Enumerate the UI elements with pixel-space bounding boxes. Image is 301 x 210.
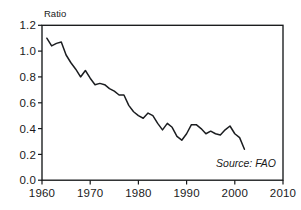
y-axis-tick-labels: 1.2 1.0 0.8 0.6 0.4 0.2 0.0: [19, 19, 36, 186]
x-tick-label-1990: 1990: [173, 187, 199, 199]
chart-container: 1.2 1.0 0.8 0.6 0.4 0.2 0.0 Ratio: [0, 0, 301, 210]
source-note: Source: FAO: [216, 157, 276, 169]
y-tick-label-1-2: 1.2: [19, 19, 36, 31]
y-tick-label-0-2: 0.2: [19, 149, 36, 161]
x-tick-label-1980: 1980: [125, 187, 151, 199]
x-axis-tick-labels: 1960 1970 1980 1990 2000 2010: [29, 187, 296, 199]
x-tick-label-2010: 2010: [270, 187, 296, 199]
ratio-series-line: [47, 38, 245, 149]
y-tick-label-0-6: 0.6: [19, 97, 36, 109]
y-tick-label-0-0: 0.0: [19, 174, 36, 186]
ratio-line-chart: 1.2 1.0 0.8 0.6 0.4 0.2 0.0 Ratio: [0, 0, 301, 210]
y-tick-label-0-8: 0.8: [19, 71, 36, 83]
x-tick-label-1960: 1960: [29, 187, 55, 199]
y-tick-label-1-0: 1.0: [19, 45, 36, 57]
y-axis-label: Ratio: [44, 8, 66, 19]
x-tick-label-1970: 1970: [77, 187, 103, 199]
y-tick-label-0-4: 0.4: [19, 123, 36, 135]
x-tick-label-2000: 2000: [222, 187, 248, 199]
